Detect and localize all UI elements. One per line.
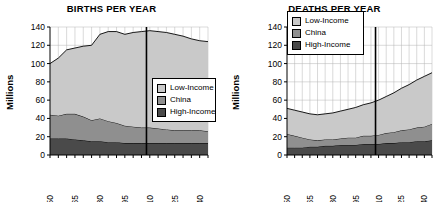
x-tick-label: 1995 <box>351 195 361 202</box>
x-tick-label: 1980 <box>95 195 105 202</box>
y-tick-label: 20 <box>36 132 46 142</box>
x-tick-label: 2025 <box>396 195 406 202</box>
y-tick-label: 40 <box>36 113 46 123</box>
x-tick-label: 2010 <box>145 195 155 202</box>
y-tick-label: 0 <box>277 150 282 160</box>
figure-canvas: BIRTHS PER YEAR Millions 020406080100120… <box>0 0 446 202</box>
y-tick-label: 0 <box>40 150 45 160</box>
legend-item-china: China <box>292 27 358 39</box>
y-tick-label: 60 <box>36 95 46 105</box>
legend-swatch-high-income <box>157 108 166 117</box>
y-tick-label: 120 <box>268 40 282 50</box>
legend-label-china: China <box>305 29 326 37</box>
legend-item-high-income: High-Income <box>157 106 210 118</box>
legend-label-low-income: Low-Income <box>305 17 349 25</box>
x-tick-label: 2010 <box>374 195 384 202</box>
legend-swatch-high-income <box>292 41 301 50</box>
chart-deaths-per-year: DEATHS PER YEAR Millions 020406080100120… <box>223 0 446 202</box>
y-tick-label: 20 <box>273 132 283 142</box>
legend-label-high-income: High-Income <box>170 108 215 116</box>
x-tick-label: 1965 <box>305 195 315 202</box>
x-tick-label: 1965 <box>70 195 80 202</box>
y-tick-label: 80 <box>36 77 46 87</box>
legend-item-low-income: Low-Income <box>292 15 358 27</box>
legend-label-high-income: High-Income <box>305 41 350 49</box>
legend-item-low-income: Low-Income <box>157 82 210 94</box>
legend-swatch-china <box>157 96 166 105</box>
legend-label-low-income: Low-Income <box>170 84 214 92</box>
y-tick-label: 100 <box>268 59 282 69</box>
x-tick-label: 2040 <box>419 195 429 202</box>
x-tick-label: 1995 <box>120 195 130 202</box>
legend-item-high-income: High-Income <box>292 39 358 51</box>
legend-deaths: Low-Income China High-Income <box>287 11 364 55</box>
legend-swatch-low-income <box>292 17 301 26</box>
legend-label-china: China <box>170 96 191 104</box>
legend-swatch-low-income <box>157 84 166 93</box>
chart-births-per-year: BIRTHS PER YEAR Millions 020406080100120… <box>0 0 223 202</box>
x-tick-label: 2040 <box>195 195 205 202</box>
x-tick-label: 2025 <box>170 195 180 202</box>
y-tick-label: 120 <box>31 40 45 50</box>
y-tick-label: 100 <box>31 59 45 69</box>
y-tick-label: 80 <box>273 77 283 87</box>
y-tick-label: 60 <box>273 95 283 105</box>
legend-swatch-china <box>292 29 301 38</box>
legend-births: Low-Income China High-Income <box>152 78 216 122</box>
x-tick-label: 1950 <box>282 195 292 202</box>
legend-item-china: China <box>157 94 210 106</box>
y-tick-label: 140 <box>31 22 45 32</box>
x-tick-label: 1980 <box>328 195 338 202</box>
y-tick-label: 140 <box>268 22 282 32</box>
x-tick-label: 1950 <box>45 195 55 202</box>
y-tick-label: 40 <box>273 113 283 123</box>
